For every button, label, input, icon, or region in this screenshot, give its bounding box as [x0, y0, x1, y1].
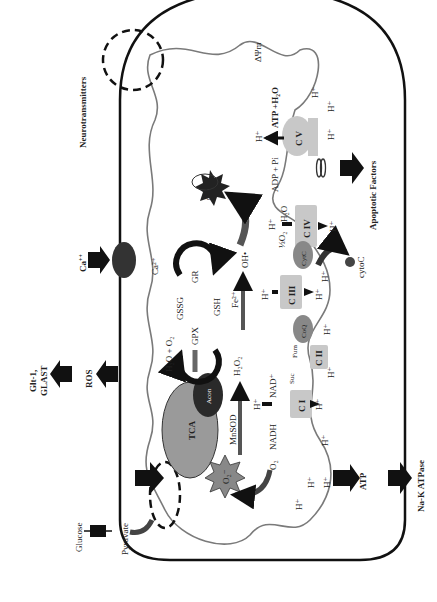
- label-h-plus: H⁺: [260, 289, 270, 300]
- label-oh: OH•: [240, 252, 250, 268]
- label-ros: ROS: [84, 369, 94, 388]
- na-k-arrow: [388, 462, 412, 494]
- ci-h-bar: [262, 402, 272, 406]
- label-suc: Suc: [288, 374, 296, 385]
- mitochondria-diagram: Neurotransmitters Apoptotic Factors Ca++…: [0, 0, 437, 602]
- label-h-plus: H⁺: [328, 221, 338, 232]
- label-na-k-atpase: Na-K ATPase: [416, 460, 426, 512]
- label-adp-pi: ADP + Pi: [270, 157, 280, 192]
- ros-arrow: [96, 360, 118, 388]
- label-superoxide: O₂⁻: [221, 469, 231, 484]
- label-ca2: Ca²⁺: [150, 257, 160, 275]
- label-h2o-o2: H₂O + O₂: [164, 337, 174, 372]
- o2-to-superoxide-arrow: [235, 470, 270, 495]
- label-h-plus: H⁺: [326, 101, 336, 112]
- label-h-plus: H⁺: [320, 435, 330, 446]
- ciii-proton-arrow: [304, 288, 314, 296]
- gr-cycle-arrow: [176, 243, 216, 275]
- label-neurotransmitters: Neurotransmitters: [78, 76, 88, 148]
- label-h-plus: H⁺: [322, 324, 332, 335]
- membrane-atp-arrow: [333, 464, 360, 492]
- label-atp-h2o: ATP +H₂O: [270, 87, 280, 128]
- label-cv: C V: [294, 130, 304, 146]
- label-apoptotic-factors: Apoptotic Factors: [368, 160, 378, 230]
- label-gsh: GSH: [212, 297, 222, 316]
- label-h-plus: H⁺: [254, 131, 264, 142]
- label-h-plus: H⁺: [252, 399, 262, 410]
- label-fe2: Fe²⁺: [230, 291, 240, 308]
- label-ciii: C III: [287, 285, 297, 305]
- label-nad: NAD⁺: [268, 374, 278, 398]
- label-tca: TCA: [187, 420, 197, 440]
- label-half-o2: ½O₂: [277, 232, 287, 248]
- label-h2o2: H₂O₂: [232, 357, 242, 376]
- gpx-cycle-arrow: [179, 350, 219, 382]
- oh-mtdna-arrow: [230, 195, 246, 245]
- label-cii: C II: [314, 350, 324, 366]
- pyruvate-arrow: [130, 520, 152, 533]
- label-fum: Fum: [291, 345, 299, 358]
- label-o2: O₂: [268, 460, 278, 470]
- complex-v-stalk: [308, 118, 318, 156]
- neurotransmitter-vesicle: [103, 30, 163, 90]
- label-mtdna: mtDNA: [204, 177, 212, 200]
- mptp-pore: [317, 159, 326, 177]
- label-coq: CoQ: [300, 325, 308, 338]
- label-delta-psi: ΔΨm: [253, 43, 263, 62]
- label-atp-outside: ATP: [358, 472, 368, 490]
- label-cytc: CytC: [300, 251, 308, 266]
- ca-arrow: [88, 246, 110, 274]
- label-h-plus: H⁺: [314, 399, 324, 410]
- label-acon: Acon: [205, 388, 213, 404]
- label-nadh: NADH: [268, 424, 278, 450]
- label-gpx: GPX: [190, 326, 200, 345]
- label-glast: GLAST: [39, 365, 49, 396]
- label-mnsod: MnSOD: [228, 414, 238, 445]
- label-h-plus: H⁺: [320, 271, 330, 282]
- label-h-plus: H⁺: [326, 129, 336, 140]
- glt-arrow: [50, 360, 72, 388]
- label-h-plus: H⁺: [306, 477, 316, 488]
- label-gssg: GSSG: [175, 296, 185, 320]
- glucose-transporter: [84, 525, 112, 537]
- cytoc-released: [345, 257, 355, 267]
- label-h-plus: H⁺: [322, 477, 332, 488]
- label-h-plus: H⁺: [267, 219, 277, 230]
- label-h-plus: H⁺: [314, 289, 324, 300]
- cytoc-release-arrow: [318, 248, 345, 265]
- label-ca-outside: Ca++: [78, 254, 88, 272]
- calcium-channel: [112, 242, 136, 278]
- label-glucose: Glucose: [74, 523, 84, 553]
- label-cytoc: cytoC: [356, 257, 366, 279]
- label-h-plus: H⁺: [310, 87, 320, 98]
- label-h-plus: H⁺: [326, 367, 336, 378]
- label-glt1: Glt-1,: [28, 370, 38, 392]
- ciii-h-bar: [272, 290, 278, 294]
- label-ci: C I: [297, 399, 307, 412]
- apoptotic-arrow: [340, 152, 364, 184]
- label-civ: C IV: [302, 219, 312, 238]
- label-h2o: H₂O: [279, 205, 289, 222]
- label-h-plus: H⁺: [294, 499, 304, 510]
- label-pyruvate: Pyruvate: [120, 523, 130, 555]
- civ-proton-arrow: [318, 222, 328, 230]
- label-gr: GR: [190, 270, 200, 283]
